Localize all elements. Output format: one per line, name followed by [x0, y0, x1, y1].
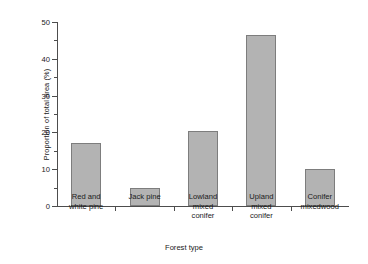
x-category-label-line: mixed [174, 202, 232, 212]
x-tick-mark [115, 206, 116, 211]
y-tick-label: 40 [42, 54, 50, 63]
x-category-label-line: white pine [57, 202, 115, 212]
plot-area: 01020304050 [57, 22, 349, 206]
bar [246, 35, 276, 206]
y-minor-tick-mark [54, 188, 57, 189]
x-category-label-line: Jack pine [115, 192, 173, 202]
x-category-label-line: Lowland [174, 192, 232, 202]
y-minor-tick-mark [54, 151, 57, 152]
y-tick-label: 50 [42, 18, 50, 27]
x-category-label-line: Conifer [291, 192, 349, 202]
x-axis-title: Forest type [0, 243, 368, 252]
x-category-label-line: mixed [232, 202, 290, 212]
y-axis-line [57, 22, 58, 206]
x-category-label-line: conifer [174, 211, 232, 221]
y-tick-label: 20 [42, 128, 50, 137]
y-tick-mark [52, 169, 57, 170]
y-tick-label: 30 [42, 91, 50, 100]
y-minor-tick-mark [54, 40, 57, 41]
x-category-label-line: Upland [232, 192, 290, 202]
y-minor-tick-mark [54, 114, 57, 115]
x-category-label-line: mixedwood [291, 202, 349, 212]
y-minor-tick-mark [54, 77, 57, 78]
bar-chart: Proportion of total area (%) 01020304050… [0, 0, 368, 264]
x-category-label-line: conifer [232, 211, 290, 221]
y-tick-mark [52, 96, 57, 97]
x-category-label: Uplandmixedconifer [232, 192, 290, 221]
x-category-label: Lowlandmixedconifer [174, 192, 232, 221]
y-tick-mark [52, 59, 57, 60]
y-tick-label: 0 [46, 202, 50, 211]
y-tick-label: 10 [42, 165, 50, 174]
y-tick-mark [52, 22, 57, 23]
x-category-label: Red andwhite pine [57, 192, 115, 211]
x-category-label-line: Red and [57, 192, 115, 202]
y-tick-mark [52, 132, 57, 133]
x-category-label: Conifermixedwood [291, 192, 349, 211]
y-axis-title: Proportion of total area (%) [42, 15, 51, 215]
x-category-label: Jack pine [115, 192, 173, 202]
